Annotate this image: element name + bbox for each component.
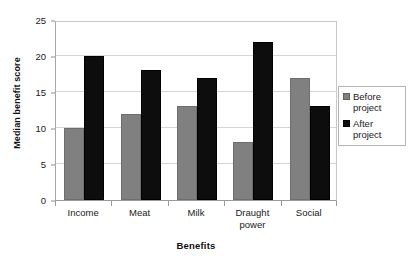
bar-before [64,128,84,200]
bar-before [233,142,253,200]
y-axis-tick-label: 25 [35,16,46,26]
legend-swatch-before-icon [343,93,350,100]
bar-group [290,22,330,200]
bar-group [233,22,273,200]
y-axis-title-text: Median benefit score [12,57,22,149]
x-axis-tick-label: Social [296,207,322,219]
y-axis-tick-label: 10 [35,124,46,134]
bar-group [121,22,161,200]
y-axis-title: Median benefit score [6,0,28,205]
bar-group [64,22,104,200]
x-axis-tick-label: Milk [188,207,205,219]
y-axis-tick-label: 5 [41,160,46,170]
x-axis-tick-mark [224,201,225,206]
x-axis-tick-mark [281,201,282,206]
bar-before [290,78,310,200]
bars-layer [56,22,336,200]
x-axis-tick-label: Meat [129,207,150,219]
x-axis-tick-mark [111,201,112,206]
legend-swatch-after-icon [343,120,350,127]
bar-after [310,106,330,200]
legend-item: Before project [343,91,402,113]
x-axis-tick-labels: IncomeMeatMilkDraught powerSocial [55,207,337,241]
x-axis-tick-mark [168,201,169,206]
bar-after [141,70,161,200]
chart-legend: Before projectAfter project [338,86,406,146]
bar-before [177,106,197,200]
y-axis-tick-label: 15 [35,88,46,98]
x-axis-title: Benefits [55,240,337,251]
x-axis-tick-label: Income [68,207,99,219]
bar-after [253,42,273,200]
bar-before [121,114,141,200]
bar-group [177,22,217,200]
y-axis-tick-label: 20 [35,52,46,62]
x-axis-tick-label: Draught power [235,207,269,231]
x-axis-tick-mark [336,201,337,206]
legend-label: After project [353,118,382,140]
bar-chart-figure: Median benefit score 0510152025 IncomeMe… [0,0,413,264]
bar-after [197,78,217,200]
x-axis-tick-mark [55,201,56,206]
bar-after [84,56,104,200]
legend-label: Before project [353,91,382,113]
y-axis-tick-labels: 0510152025 [26,15,50,202]
plot-area [55,21,337,201]
y-axis-tick-label: 0 [41,196,46,206]
legend-item: After project [343,118,402,140]
